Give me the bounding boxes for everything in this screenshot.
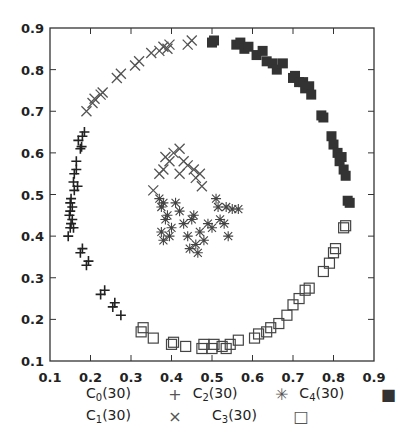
y-tick-label: 0.9 <box>21 21 44 36</box>
open-square-marker-icon: □ <box>286 407 316 426</box>
legend-row-1: C0(30) + C2(30) ✳ C4(30) ■ <box>86 383 406 405</box>
y-tick-label: 0.1 <box>21 354 44 369</box>
x-tick-label: 0.1 <box>38 370 61 385</box>
asterisk-marker-icon: ✳ <box>267 385 297 404</box>
legend-label-c4: C4(30) <box>299 385 373 403</box>
legend-item-c0: C0(30) + <box>86 385 193 404</box>
data-points <box>63 35 354 353</box>
axis-ticks: 0.10.20.30.40.50.60.70.80.90.10.20.30.40… <box>21 21 386 385</box>
y-tick-label: 0.3 <box>21 271 44 286</box>
legend-item-c4: C4(30) ■ <box>299 385 406 404</box>
filled-square-marker-icon: ■ <box>373 385 403 404</box>
legend-label-c0: C0(30) <box>86 385 160 403</box>
legend: C0(30) + C2(30) ✳ C4(30) ■ C1(30) × C3(3… <box>86 383 406 427</box>
plus-marker-icon: + <box>160 385 190 404</box>
legend-label-c1: C1(30) <box>86 407 160 425</box>
y-tick-label: 0.6 <box>21 146 44 161</box>
legend-item-c2: C2(30) ✳ <box>193 385 300 404</box>
y-tick-label: 0.7 <box>21 104 44 119</box>
y-tick-label: 0.2 <box>21 312 44 327</box>
legend-label-c2: C2(30) <box>193 385 267 403</box>
legend-item-c3: C3(30) □ <box>212 407 338 426</box>
legend-row-2: C1(30) × C3(30) □ <box>86 405 406 427</box>
cross-marker-icon: × <box>160 407 190 426</box>
scatter-chart: 0.10.20.30.40.50.60.70.80.90.10.20.30.40… <box>0 0 408 438</box>
y-tick-label: 0.4 <box>21 229 44 244</box>
y-tick-label: 0.8 <box>21 63 44 78</box>
plot-frame <box>50 28 374 361</box>
legend-item-c1: C1(30) × <box>86 407 212 426</box>
y-tick-label: 0.5 <box>21 188 44 203</box>
legend-label-c3: C3(30) <box>212 407 286 425</box>
